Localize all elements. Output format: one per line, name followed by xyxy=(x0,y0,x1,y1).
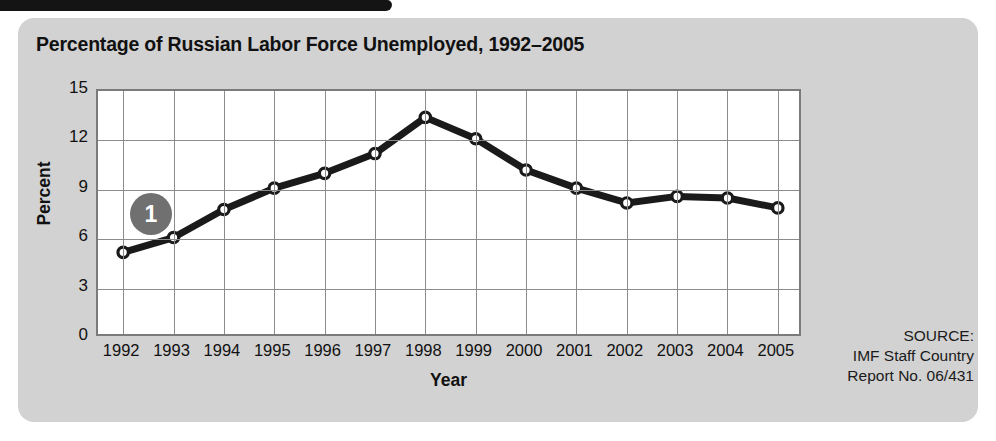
gridline-vertical xyxy=(476,91,477,334)
y-axis-tick-label: 3 xyxy=(48,276,88,296)
x-axis-tick-label: 1995 xyxy=(243,341,301,360)
gridline-vertical xyxy=(727,91,728,334)
gridline-vertical xyxy=(224,91,225,334)
y-axis-tick-label: 0 xyxy=(48,325,88,345)
gridline-vertical xyxy=(526,91,527,334)
x-axis-tick-label: 1994 xyxy=(193,341,251,360)
x-axis-tick-label: 1997 xyxy=(344,341,402,360)
gridline-vertical xyxy=(627,91,628,334)
figure-canvas: Percentage of Russian Labor Force Unempl… xyxy=(0,0,996,441)
source-line-3: Report No. 06/431 xyxy=(744,366,974,386)
gridline-vertical xyxy=(174,91,175,334)
x-axis-tick-label: 2003 xyxy=(646,341,704,360)
series-unemployment-line xyxy=(98,91,803,338)
gridline-vertical xyxy=(778,91,779,334)
x-axis-tick-label: 1996 xyxy=(294,341,352,360)
x-axis-tick-label: 1993 xyxy=(143,341,201,360)
gridline-horizontal xyxy=(98,239,799,240)
gridline-vertical xyxy=(425,91,426,334)
callout-badge-1: 1 xyxy=(130,193,172,235)
x-axis-tick-label: 1998 xyxy=(394,341,452,360)
source-line-1: SOURCE: xyxy=(744,326,974,346)
x-axis-tick-label: 1999 xyxy=(445,341,503,360)
gridline-vertical xyxy=(375,91,376,334)
x-axis-label: Year xyxy=(96,370,801,391)
gridline-vertical xyxy=(325,91,326,334)
x-axis-tick-row: 1992199319941995199619971998199920002001… xyxy=(96,341,801,365)
data-point-markers xyxy=(118,112,783,257)
gridline-horizontal xyxy=(98,190,799,191)
x-axis-tick-label: 2001 xyxy=(545,341,603,360)
y-axis-tick-label: 15 xyxy=(48,78,88,98)
x-axis-tick-label: 1992 xyxy=(92,341,150,360)
source-note: SOURCE: IMF Staff Country Report No. 06/… xyxy=(744,326,974,385)
gridline-vertical xyxy=(274,91,275,334)
gridline-vertical xyxy=(576,91,577,334)
x-axis-tick-label: 2002 xyxy=(596,341,654,360)
page-title: Percentage of Russian Labor Force Unempl… xyxy=(36,33,584,56)
plot-area xyxy=(96,89,801,336)
y-axis-label: Percent xyxy=(34,134,55,254)
gridline-horizontal xyxy=(98,289,799,290)
gridline-horizontal xyxy=(98,140,799,141)
x-axis-tick-label: 2000 xyxy=(495,341,553,360)
line-path xyxy=(123,117,778,252)
gridline-vertical xyxy=(123,91,124,334)
gridline-vertical xyxy=(677,91,678,334)
source-line-2: IMF Staff Country xyxy=(744,346,974,366)
